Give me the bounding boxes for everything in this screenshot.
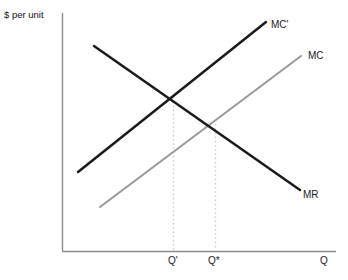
x-axis-title: Q <box>320 256 328 266</box>
chart-plot-area <box>0 0 348 280</box>
x-tick-label-q-prime: Q' <box>168 256 178 266</box>
curve-mc-prime <box>78 22 266 172</box>
marginal-cost-revenue-chart: $ per unit MC' MC MR Q' Q* Q <box>0 0 348 280</box>
curve-mr <box>94 46 300 190</box>
curve-label-mc-prime: MC' <box>271 20 288 30</box>
curve-label-mr: MR <box>303 190 319 200</box>
y-axis-title: $ per unit <box>4 10 44 20</box>
curve-label-mc: MC <box>308 51 324 61</box>
x-tick-label-q-star: Q* <box>208 256 220 266</box>
